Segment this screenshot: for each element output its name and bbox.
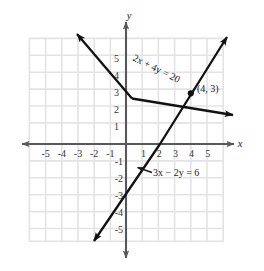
x-tick-label: -4 — [58, 148, 66, 159]
y-axis-label: y — [126, 10, 132, 21]
x-tick-label: -3 — [74, 148, 82, 159]
x-tick-label: -2 — [90, 148, 98, 159]
equation-label-line-2: 3x − 2y = 6 — [153, 167, 199, 178]
graph-canvas: x y -5 -4 -3 -2 -1 1 2 3 4 5 5 4 3 2 1 -… — [0, 0, 264, 271]
y-tick-label: -1 — [115, 156, 123, 167]
intersection-point-label: (4, 3) — [197, 83, 219, 95]
axes — [22, 22, 234, 258]
x-tick-label: 3 — [173, 148, 178, 159]
x-tick-label: 4 — [189, 148, 194, 159]
y-tick-label: 5 — [114, 53, 119, 64]
x-tick-label: -1 — [106, 148, 114, 159]
x-tick-label: 1 — [141, 148, 146, 159]
y-tick-label: 2 — [114, 104, 119, 115]
line-2x-plus-4y-equals-20 — [77, 34, 233, 115]
x-axis-label: x — [237, 138, 243, 149]
y-tick-label: -5 — [115, 224, 123, 235]
x-tick-label: -5 — [41, 148, 49, 159]
y-tick-label: 1 — [114, 121, 119, 132]
coordinate-plane-figure: x y -5 -4 -3 -2 -1 1 2 3 4 5 5 4 3 2 1 -… — [0, 0, 264, 271]
x-tick-label: 5 — [205, 148, 210, 159]
y-tick-label: -2 — [115, 173, 123, 184]
y-tick-label: 3 — [114, 87, 119, 98]
intersection-point-marker — [188, 90, 194, 96]
